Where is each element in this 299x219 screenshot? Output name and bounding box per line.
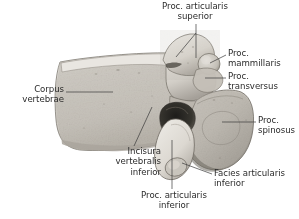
anatomy-figure: Proc. articularis superior Proc. mammill… bbox=[0, 0, 299, 219]
label-corpus-vertebrae: Corpus vertebrae bbox=[2, 84, 64, 105]
label-proc-spinosus: Proc. spinosus bbox=[258, 115, 299, 136]
label-proc-transversus: Proc. transversus bbox=[228, 71, 298, 92]
label-facies-articularis-inferior: Facies articularis inferior bbox=[214, 168, 299, 189]
label-proc-articularis-superior: Proc. articularis superior bbox=[138, 1, 252, 22]
label-proc-articularis-inferior: Proc. articularis inferior bbox=[130, 190, 218, 211]
proc-transversus-shape bbox=[193, 68, 223, 92]
label-incisura-vertebralis-inferior: Incisura vertebralis inferior bbox=[95, 146, 161, 177]
label-proc-mammillaris: Proc. mammillaris bbox=[228, 48, 298, 69]
